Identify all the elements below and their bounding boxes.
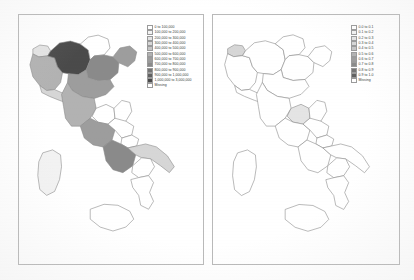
region-sicilia bbox=[285, 204, 329, 231]
region-calabria bbox=[326, 176, 349, 210]
legend-label: Missing bbox=[359, 78, 371, 83]
region-sardegna bbox=[38, 150, 62, 196]
legend-row-missing: Missing bbox=[147, 83, 167, 88]
region-veneto bbox=[281, 55, 314, 81]
legend-ratio: 0.0 to 0.10.1 to 0.20.2 to 0.30.3 to 0.4… bbox=[351, 25, 374, 83]
region-sicilia bbox=[90, 204, 134, 231]
legend-swatch bbox=[351, 78, 357, 83]
legend-swatch bbox=[147, 83, 153, 88]
map-panel-ratio: 0.0 to 0.10.1 to 0.20.2 to 0.30.3 to 0.4… bbox=[212, 14, 400, 265]
region-sardegna bbox=[233, 150, 257, 196]
legend-row-missing: Missing bbox=[351, 78, 371, 83]
map-panel-population: 0 to 100,000100,000 to 200,000200,000 to… bbox=[18, 14, 204, 265]
two-panel-map-figure: 0 to 100,000100,000 to 200,000200,000 to… bbox=[0, 0, 414, 280]
legend-population: 0 to 100,000100,000 to 200,000200,000 to… bbox=[147, 25, 192, 89]
region-group-ratio bbox=[225, 35, 370, 231]
region-calabria bbox=[131, 176, 154, 210]
legend-label: Missing bbox=[155, 83, 167, 88]
region-basilicata bbox=[327, 158, 350, 178]
region-veneto bbox=[86, 55, 119, 81]
region-basilicata bbox=[132, 158, 155, 178]
